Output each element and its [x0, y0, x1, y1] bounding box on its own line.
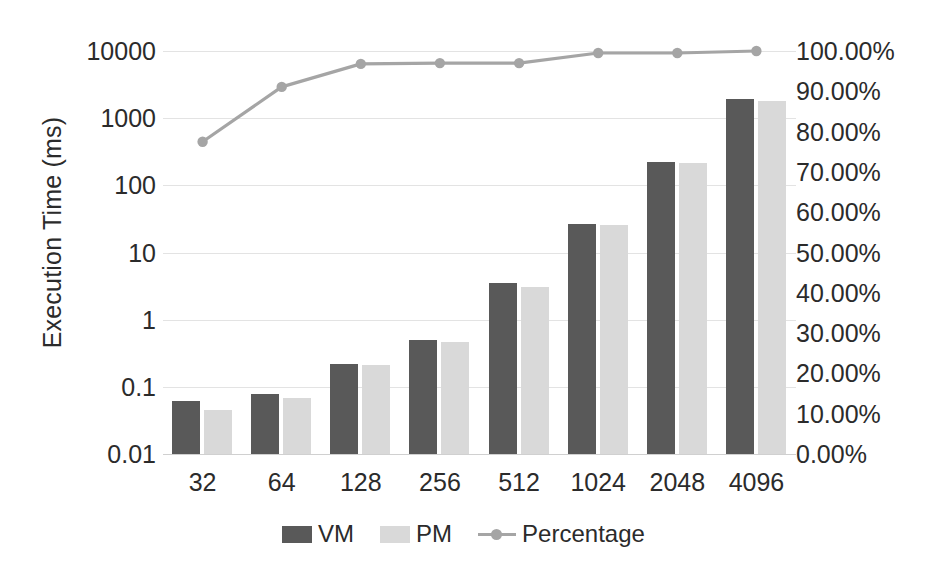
x-axis-tick-label: 256 — [400, 468, 479, 497]
percentage-data-point — [435, 58, 445, 68]
secondary-y-axis-tick-label: 90.00% — [796, 79, 881, 104]
legend-label: PM — [416, 520, 452, 548]
secondary-y-axis-tick-label: 10.00% — [796, 401, 881, 426]
secondary-y-axis-tick-label: 100.00% — [796, 39, 895, 64]
legend-line-marker-icon — [478, 526, 516, 543]
legend-label: VM — [318, 520, 354, 548]
secondary-y-axis-tick-label: 80.00% — [796, 119, 881, 144]
secondary-y-axis-tick-label: 70.00% — [796, 159, 881, 184]
legend-label: Percentage — [522, 520, 645, 548]
legend-swatch-icon — [282, 526, 312, 543]
legend-swatch-icon — [380, 526, 410, 543]
y-axis-tick-label: 10000 — [86, 39, 156, 64]
legend-item[interactable]: VM — [282, 520, 354, 548]
y-axis-tick-label: 100 — [114, 173, 156, 198]
x-axis-tick-label: 4096 — [717, 468, 796, 497]
legend-item[interactable]: Percentage — [478, 520, 645, 548]
y-axis-tick-label: 10 — [128, 240, 156, 265]
x-axis-line — [163, 454, 796, 455]
percentage-data-point — [751, 46, 761, 56]
secondary-y-axis-tick-labels: 100.00%90.00%80.00%70.00%60.00%50.00%40.… — [796, 0, 922, 578]
percentage-data-point — [593, 48, 603, 58]
y-axis-tick-label: 1000 — [100, 106, 156, 131]
secondary-y-axis-tick-label: 40.00% — [796, 280, 881, 305]
chart-legend: VMPMPercentage — [0, 520, 927, 548]
percentage-data-point — [356, 59, 366, 69]
x-axis-tick-label: 2048 — [638, 468, 717, 497]
percentage-data-point — [514, 58, 524, 68]
secondary-y-axis-tick-label: 60.00% — [796, 200, 881, 225]
x-axis-tick-label: 512 — [480, 468, 559, 497]
x-axis-tick-label: 32 — [163, 468, 242, 497]
x-axis-tick-label: 128 — [321, 468, 400, 497]
secondary-y-axis-tick-label: 0.00% — [796, 442, 867, 467]
secondary-y-axis-tick-label: 50.00% — [796, 240, 881, 265]
y-axis-tick-labels: 1000010001001010.10.01 — [44, 0, 156, 578]
chart-figure: Execution Time (ms) 1000010001001010.10.… — [0, 0, 927, 578]
percentage-data-point — [672, 48, 682, 58]
legend-item[interactable]: PM — [380, 520, 452, 548]
secondary-y-axis-tick-label: 30.00% — [796, 321, 881, 346]
y-axis-tick-label: 0.1 — [121, 374, 156, 399]
percentage-data-point — [277, 82, 287, 92]
percentage-line — [203, 51, 757, 142]
x-axis-tick-label: 64 — [242, 468, 321, 497]
x-axis-tick-label: 1024 — [559, 468, 638, 497]
percentage-data-point — [197, 137, 207, 147]
percentage-line-layer — [163, 51, 796, 454]
y-axis-tick-label: 0.01 — [107, 442, 156, 467]
x-axis-tick-labels: 3264128256512102420484096 — [163, 468, 796, 508]
y-axis-tick-label: 1 — [142, 307, 156, 332]
secondary-y-axis-tick-label: 20.00% — [796, 361, 881, 386]
